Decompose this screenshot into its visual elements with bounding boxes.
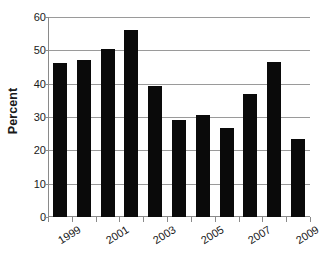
x-tick-mark <box>239 217 240 222</box>
bar <box>291 139 305 217</box>
x-tick-label: 2003 <box>151 224 178 246</box>
x-tick-mark <box>167 217 168 222</box>
x-tick-mark <box>215 217 216 222</box>
y-axis-tick-labels: 0102030405060 <box>24 0 46 240</box>
bar <box>53 63 67 217</box>
y-tick-label: 10 <box>24 178 46 189</box>
bar <box>196 115 210 217</box>
bar <box>172 120 186 217</box>
y-axis-title: Percent <box>0 0 26 222</box>
y-tick-label: 60 <box>24 12 46 23</box>
x-tick-mark <box>72 217 73 222</box>
bar <box>77 60 91 217</box>
x-axis: 199920012003200520072009 <box>48 217 310 262</box>
y-tick-label: 30 <box>24 112 46 123</box>
bars-series <box>48 17 310 217</box>
bar <box>101 49 115 217</box>
y-tick-label: 50 <box>24 45 46 56</box>
bar-chart-figure: Percent 0102030405060 199920012003200520… <box>0 0 322 262</box>
x-tick-label: 2007 <box>247 224 274 246</box>
plot-area <box>48 17 310 217</box>
y-tick-label: 0 <box>24 212 46 223</box>
y-tick-label: 20 <box>24 145 46 156</box>
x-tick-label: 2005 <box>199 224 226 246</box>
x-tick-mark <box>119 217 120 222</box>
bar <box>243 94 257 217</box>
x-tick-mark <box>191 217 192 222</box>
bar <box>124 30 138 217</box>
x-tick-mark <box>143 217 144 222</box>
x-tick-label: 2001 <box>104 224 131 246</box>
bar <box>148 86 162 217</box>
x-tick-mark <box>262 217 263 222</box>
x-tick-mark <box>310 217 311 222</box>
y-axis-title-label: Percent <box>6 88 20 135</box>
x-tick-label: 1999 <box>56 224 83 246</box>
bar <box>220 128 234 217</box>
bar <box>267 62 281 217</box>
y-tick-label: 40 <box>24 78 46 89</box>
x-tick-mark <box>48 217 49 222</box>
x-tick-mark <box>96 217 97 222</box>
x-tick-label: 2009 <box>294 224 321 246</box>
x-tick-mark <box>286 217 287 222</box>
